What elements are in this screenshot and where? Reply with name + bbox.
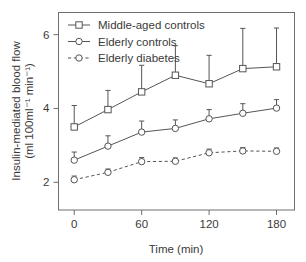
data-point-circle (172, 158, 178, 164)
data-point-square (105, 106, 111, 112)
data-point-circle (105, 169, 111, 175)
data-point-square (76, 22, 82, 28)
data-point-circle (138, 129, 144, 135)
data-point-circle (273, 148, 279, 154)
y-tick-label: 2 (43, 176, 49, 188)
data-point-circle (105, 143, 111, 149)
legend-label: Middle-aged controls (98, 19, 205, 31)
y-axis-label-line1: Insulin-mediated blood flow (10, 41, 22, 181)
data-point-square (240, 65, 246, 71)
data-point-circle (206, 150, 212, 156)
y-axis-label-line2: (ml 100ml⁻¹ min⁻¹) (23, 63, 35, 159)
data-point-square (273, 64, 279, 70)
legend-label: Elderly diabetes (98, 52, 180, 64)
data-point-circle (71, 177, 77, 183)
legend-label: Elderly controls (98, 36, 177, 48)
data-point-circle (76, 55, 82, 61)
data-point-square (172, 72, 178, 78)
data-point-square (71, 124, 77, 130)
data-point-circle (172, 125, 178, 131)
data-point-circle (206, 116, 212, 122)
line-chart: 246 060120180 Middle-aged controlsElderl… (0, 0, 306, 262)
x-tick-label: 0 (71, 218, 77, 230)
x-tick-label: 60 (135, 218, 148, 230)
data-point-circle (240, 148, 246, 154)
data-point-circle (138, 158, 144, 164)
data-point-circle (71, 157, 77, 163)
data-point-square (138, 89, 144, 95)
data-point-square (206, 81, 212, 87)
data-point-circle (76, 38, 82, 44)
data-point-circle (273, 105, 279, 111)
y-tick-label: 4 (43, 102, 50, 114)
chart-figure: 246 060120180 Middle-aged controlsElderl… (0, 0, 306, 262)
x-tick-label: 120 (199, 218, 218, 230)
y-tick-label: 6 (43, 29, 49, 41)
x-tick-label: 180 (267, 218, 286, 230)
x-axis-label: Time (min) (149, 243, 204, 255)
data-point-circle (240, 110, 246, 116)
